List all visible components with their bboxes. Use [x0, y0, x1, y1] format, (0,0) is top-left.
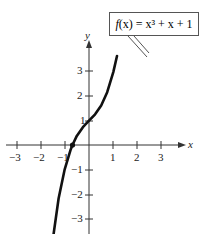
x-axis-label: x — [188, 139, 193, 150]
x-tick-label: 2 — [134, 152, 140, 163]
x-axis-arrow-icon — [178, 142, 186, 148]
y-tick-label: 3 — [77, 65, 83, 76]
equation-label-box: f(x) = x³ + x + 1 — [109, 12, 199, 36]
y-axis-label: y — [85, 30, 90, 41]
x-tick-label: 1 — [110, 152, 116, 163]
y-tick-label: −2 — [71, 189, 83, 200]
y-tick-label: 1 — [80, 115, 86, 126]
y-tick-label: −3 — [71, 213, 83, 224]
x-tick-label: −3 — [9, 152, 21, 163]
callout-pointer — [128, 36, 147, 57]
x-tick-label: 3 — [158, 152, 164, 163]
eq-expression: (x) = x³ + x + 1 — [119, 17, 193, 32]
x-tick-label: −1 — [57, 152, 69, 163]
x-tick-label: −2 — [33, 152, 45, 163]
y-tick-label: −1 — [71, 164, 83, 175]
y-tick-label: 2 — [77, 90, 83, 101]
zero-point-marker — [70, 142, 75, 147]
y-axis-arrow-icon — [86, 40, 92, 48]
